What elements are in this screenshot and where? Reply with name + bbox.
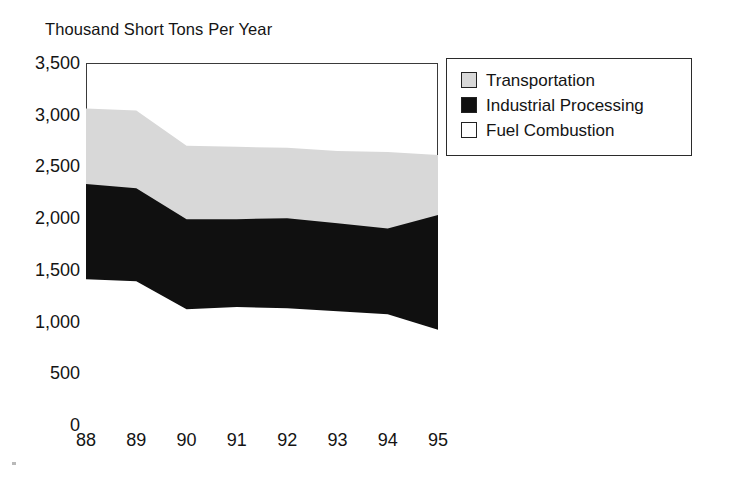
legend-item: Transportation [461, 68, 691, 92]
legend-item-label: Fuel Combustion [486, 122, 615, 139]
x-tick-label: 91 [227, 430, 247, 451]
stacked-area-svg [86, 63, 438, 425]
y-axis-title: Thousand Short Tons Per Year [45, 20, 272, 39]
x-tick-label: 92 [277, 430, 297, 451]
x-tick-label: 94 [378, 430, 398, 451]
legend-item: Industrial Processing [461, 93, 691, 117]
y-tick-label: 3,000 [2, 104, 80, 125]
y-tick-label: 2,000 [2, 208, 80, 229]
x-tick-label: 93 [327, 430, 347, 451]
x-tick-label: 90 [177, 430, 197, 451]
y-axis-tick-labels: 05001,0001,5002,0002,5003,0003,500 [0, 63, 80, 425]
x-tick-label: 88 [76, 430, 96, 451]
chart-legend: TransportationIndustrial ProcessingFuel … [446, 58, 692, 156]
chart-figure: Thousand Short Tons Per Year 05001,0001,… [0, 0, 730, 484]
y-tick-label: 2,500 [2, 156, 80, 177]
legend-item: Fuel Combustion [461, 118, 691, 142]
y-tick-label: 1,000 [2, 311, 80, 332]
legend-item-label: Transportation [486, 72, 595, 89]
y-tick-label: 500 [2, 363, 80, 384]
y-tick-label: 1,500 [2, 259, 80, 280]
plot-area [86, 63, 438, 425]
legend-swatch-icon [461, 97, 477, 113]
legend-item-label: Industrial Processing [486, 97, 644, 114]
legend-swatch-icon [461, 122, 477, 138]
y-tick-label: 0 [2, 415, 80, 436]
scan-speck [12, 462, 16, 465]
x-tick-label: 89 [126, 430, 146, 451]
x-tick-label: 95 [428, 430, 448, 451]
y-tick-label: 3,500 [2, 53, 80, 74]
x-axis-tick-labels: 8889909192939495 [86, 430, 438, 460]
legend-swatch-icon [461, 72, 477, 88]
